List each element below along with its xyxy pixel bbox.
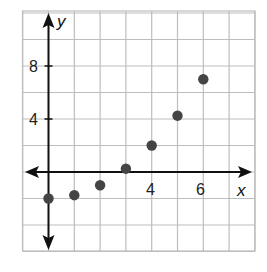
data-point — [121, 163, 131, 173]
data-point — [43, 193, 53, 203]
grid — [23, 11, 256, 252]
data-point — [69, 190, 79, 200]
tick-label-y-4: 4 — [29, 111, 38, 128]
tick-label-y-8: 8 — [29, 58, 38, 75]
data-point — [147, 140, 157, 150]
data-point — [198, 74, 208, 84]
data-point — [172, 110, 182, 120]
tick-label-x-4: 4 — [146, 181, 155, 198]
tick-label-x-6: 6 — [196, 181, 205, 198]
data-point — [95, 180, 105, 190]
x-axis-label: x — [236, 181, 246, 200]
grid-border — [23, 11, 256, 251]
y-axis-label: y — [56, 12, 67, 31]
axes — [25, 13, 252, 250]
scatter-plot: y x 8 4 4 6 — [0, 0, 267, 272]
